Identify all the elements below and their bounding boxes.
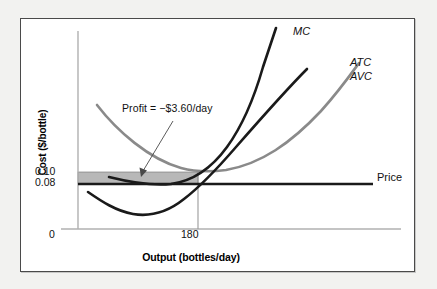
x-axis-title: Output (bottles/day) (21, 251, 361, 263)
atc-curve-label: ATC (350, 56, 371, 68)
mc-curve-label: MC (293, 25, 310, 37)
x-tick-label-zero: 0 (49, 228, 55, 240)
price-line-label: Price (377, 171, 402, 183)
avc-curve-label: AVC (350, 70, 372, 82)
y-tick-label-008: 0.08 (35, 176, 55, 188)
figure-root: Cost ($/bottle) Output (bottles/day) 0.1… (0, 0, 437, 289)
figure-frame: Cost ($/bottle) Output (bottles/day) 0.1… (20, 18, 415, 272)
x-tick-label-180: 180 (181, 228, 199, 240)
profit-annotation-text: Profit = −$3.60/day (122, 102, 213, 114)
